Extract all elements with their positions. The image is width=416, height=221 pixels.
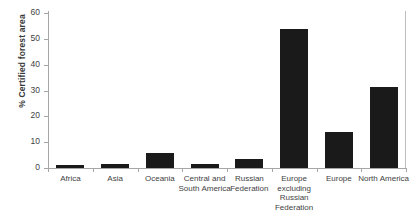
y-tick-label: 30 [31,85,40,95]
x-tick-mark [182,168,183,172]
y-tick-label: 10 [31,136,40,146]
bar-slot [361,13,406,168]
x-axis-ticks [48,168,406,173]
x-tick-mark [406,168,407,172]
bar[interactable] [325,132,353,168]
bars-container [48,13,406,168]
bar-slot [93,13,138,168]
bar-slot [227,13,272,168]
bar-slot [138,13,183,168]
x-tick-mark [361,168,362,172]
bar[interactable] [146,153,174,169]
y-tick-label: 40 [31,59,40,69]
bar-slot [48,13,93,168]
x-tick-mark [272,168,273,172]
bar[interactable] [370,87,398,168]
x-tick-mark [317,168,318,172]
x-tick-label: North America [356,174,411,184]
x-tick-mark [48,168,49,172]
bar-slot [272,13,317,168]
x-tick-mark [138,168,139,172]
y-tick-label: 50 [31,33,40,43]
bar-slot [182,13,227,168]
bar[interactable] [235,159,263,168]
bar-chart: % Certified forest area 0102030405060 Af… [0,0,416,221]
y-tick-label: 20 [31,110,40,120]
bar-slot [317,13,362,168]
x-tick-mark [93,168,94,172]
y-tick-label: 60 [31,7,40,17]
x-tick-mark [227,168,228,172]
bar[interactable] [280,29,308,169]
x-axis-labels: AfricaAsiaOceaniaCentral and South Ameri… [48,174,406,220]
y-tick-label: 0 [35,162,40,172]
y-axis-ticks: 0102030405060 [0,13,48,168]
